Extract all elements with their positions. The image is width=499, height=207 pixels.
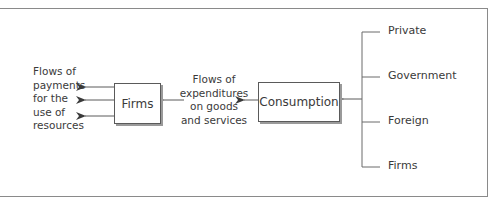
consumption-box: Consumption (258, 82, 340, 122)
consumption-box-label: Consumption (259, 95, 338, 109)
payments-flow-label-line: resources (33, 119, 85, 133)
payments-flow-label-line: payments (33, 79, 85, 93)
firms-box-label: Firms (121, 97, 153, 111)
payments-flow-label: Flows of payments for the use of resourc… (33, 65, 85, 133)
expenditures-flow-label-line: on goods (168, 100, 260, 114)
expenditures-flow-label: Flows of expenditures on goods and servi… (168, 73, 260, 127)
source-label-foreign: Foreign (388, 114, 429, 127)
source-label-government: Government (388, 69, 457, 82)
payments-flow-label-line: for the (33, 92, 85, 106)
expenditures-flow-label-line: and services (168, 114, 260, 128)
payments-flow-label-line: Flows of (33, 65, 85, 79)
expenditures-flow-label-line: Flows of (168, 73, 260, 87)
expenditures-flow-label-line: expenditures (168, 87, 260, 101)
payments-flow-label-line: use of (33, 106, 85, 120)
firms-box: Firms (114, 83, 161, 124)
source-label-private: Private (388, 24, 426, 37)
source-label-firms: Firms (388, 159, 417, 172)
